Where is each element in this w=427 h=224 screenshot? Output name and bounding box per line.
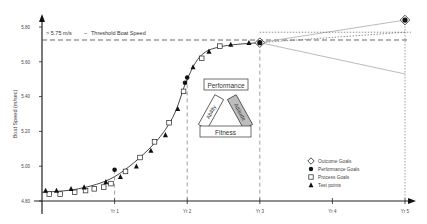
y-tick-label: 4.80 [21, 199, 30, 204]
y-tick-label: 5.80 [21, 25, 30, 30]
y-axis-label: Boat Speed (m/sec) [12, 90, 18, 139]
legend-marker-icon [309, 175, 313, 179]
performance-label: Performance [207, 82, 245, 89]
data-point [175, 106, 180, 111]
y-tick-label: 5.00 [21, 164, 30, 169]
y-tick-label: 5.60 [21, 60, 30, 65]
data-point [167, 120, 172, 125]
legend-label: Test points [318, 183, 342, 188]
boat-speed-chart: 4.805.005.205.405.605.80 Yr 1Yr 2Yr 3Yr … [0, 0, 427, 224]
data-point [92, 187, 97, 192]
threshold-text-label: Threshold Boat Speed [91, 30, 146, 36]
x-tick-label: Yr 5 [401, 209, 410, 214]
data-point [69, 186, 74, 191]
data-point [134, 163, 139, 168]
x-tick-label: Yr 3 [256, 209, 265, 214]
trend-curve [42, 43, 260, 193]
data-point [101, 185, 106, 190]
fitness-label: Fitness [215, 129, 237, 136]
data-point [54, 188, 59, 193]
data-point [43, 188, 48, 193]
y-tick-label: 5.20 [21, 129, 30, 134]
data-point [152, 140, 157, 145]
legend-marker-icon [309, 167, 313, 171]
data-point [228, 42, 233, 47]
x-tick-label: Yr 2 [183, 209, 192, 214]
threshold-dash: – [84, 30, 88, 36]
x-axis-arrow-icon [408, 198, 416, 204]
data-point [185, 75, 190, 80]
data-point [218, 44, 223, 49]
performance-triangle-diagram: Ability Attitude Performance Fitness [198, 79, 252, 137]
threshold-value-label: > 5.75 m/s [46, 30, 72, 36]
legend-label: Outcome Goals [318, 159, 352, 164]
axes [34, 14, 416, 214]
data-point [123, 169, 128, 174]
data-point [181, 89, 186, 94]
y-tick-label: 5.40 [21, 94, 30, 99]
x-tick-label: Yr 4 [328, 209, 337, 214]
data-point [183, 80, 188, 85]
data-point [246, 40, 251, 45]
legend-label: Performance Goals [318, 167, 360, 172]
legend: Outcome GoalsPerformance GoalsProcess Go… [308, 158, 360, 188]
data-point [112, 167, 117, 172]
projection-lines [260, 20, 411, 74]
threshold-line: > 5.75 m/s – Threshold Boat Speed [42, 30, 410, 40]
x-tick-label: Yr 1 [110, 209, 119, 214]
legend-marker-icon [308, 158, 314, 164]
legend-marker-icon [309, 182, 314, 187]
data-point [138, 155, 143, 160]
data-point [199, 56, 204, 61]
data-point [109, 181, 114, 186]
y-axis-arrow-icon [39, 14, 45, 22]
data-point [163, 132, 168, 137]
y-axis-ticks: 4.805.005.205.405.605.80 [21, 25, 42, 204]
legend-label: Process Goals [318, 175, 350, 180]
